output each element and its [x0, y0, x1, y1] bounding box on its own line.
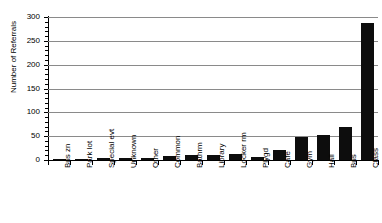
y-tick-label-200: 200	[14, 61, 40, 69]
x-label-gym: Gym	[305, 151, 314, 168]
y-tick-label-300: 300	[14, 13, 40, 21]
bar-chart: Number of Referrals 300250200150100500 B…	[0, 0, 382, 223]
x-label-class: Class	[371, 148, 380, 168]
y-tick-label-250: 250	[14, 37, 40, 45]
x-label-bus: Bus	[349, 154, 358, 168]
gridline-250	[48, 41, 378, 42]
x-label-unknown: Unknown	[129, 135, 138, 168]
x-label-park-lot: Park lot	[85, 141, 94, 168]
plot-area	[48, 17, 378, 160]
gridline-100	[48, 112, 378, 113]
x-label-plygd: Plygd	[261, 148, 270, 168]
y-tick-label-0: 0	[14, 156, 40, 164]
x-tick-0	[48, 161, 49, 165]
y-tick-label-100: 100	[14, 108, 40, 116]
x-label-bathrm: Bathrm	[195, 142, 204, 168]
x-label-common: Common	[173, 136, 182, 168]
y-tick-label-150: 150	[14, 85, 40, 93]
y-tick-label-50: 50	[14, 132, 40, 140]
x-label-library: Library	[217, 144, 226, 168]
x-label-hall: Hall	[327, 154, 336, 168]
gridline-300	[48, 17, 378, 18]
gridline-150	[48, 89, 378, 90]
gridline-200	[48, 65, 378, 66]
x-label-bus-zn: Bus zn	[63, 144, 72, 168]
x-label-cafe: Cafe	[283, 151, 292, 168]
x-label-locker-rm: Locker rm	[239, 132, 248, 168]
bar-class	[361, 23, 374, 160]
x-label-other: Other	[151, 148, 160, 168]
x-label-special-evt: Special evt	[107, 129, 116, 168]
